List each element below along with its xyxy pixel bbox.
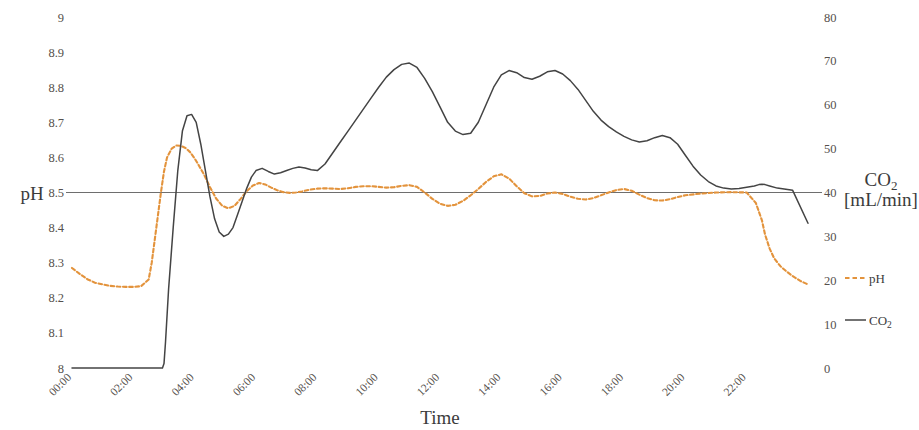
x-axis-tick-label: 00:00: [46, 371, 73, 398]
right-axis-title-line2: [mL/min]: [844, 189, 918, 210]
x-axis-ticks: 00:0002:0004:0006:0008:0010:0012:0014:00…: [46, 371, 748, 398]
right-axis-ticks: 01020304050607080: [824, 11, 837, 376]
x-axis-tick-label: 04:00: [169, 371, 196, 398]
legend-label-ph: pH: [869, 271, 885, 286]
x-axis-tick-label: 10:00: [353, 371, 380, 398]
series-lines: [72, 63, 808, 368]
x-axis-tick-label: 22:00: [721, 371, 748, 398]
chart-container: 88.18.28.38.48.58.68.78.88.99 0102030405…: [0, 0, 919, 430]
left-axis-ticks: 88.18.28.38.48.58.68.78.88.99: [48, 11, 64, 376]
series-line-ph: [72, 145, 808, 286]
x-axis-tick-label: 16:00: [537, 371, 564, 398]
right-axis-tick-label: 80: [824, 11, 837, 25]
left-axis-tick-label: 8.1: [48, 326, 64, 340]
series-line-co2: [72, 63, 808, 368]
left-axis-tick-label: 8.6: [48, 151, 64, 165]
left-axis-title: pH: [20, 183, 44, 204]
right-axis-tick-label: 30: [824, 230, 837, 244]
x-axis-tick-label: 06:00: [230, 371, 257, 398]
legend-label-co2: CO2: [869, 313, 892, 330]
chart-legend: pHCO2: [845, 271, 892, 330]
right-axis-tick-label: 70: [824, 54, 837, 68]
left-axis-tick-label: 8.9: [48, 46, 64, 60]
x-axis-tick-label: 08:00: [292, 371, 319, 398]
right-axis-tick-label: 60: [824, 98, 837, 112]
right-axis-tick-label: 20: [824, 274, 837, 288]
x-axis-tick-label: 12:00: [414, 371, 441, 398]
left-axis-tick-label: 8.5: [48, 186, 64, 200]
left-axis-tick-label: 8.3: [48, 256, 64, 270]
left-axis-tick-label: 9: [58, 11, 64, 25]
x-axis-tick-label: 14:00: [476, 371, 503, 398]
x-axis-title: Time: [420, 407, 459, 428]
left-axis-tick-label: 8.8: [48, 81, 64, 95]
right-axis-tick-label: 0: [824, 362, 830, 376]
right-axis-tick-label: 10: [824, 318, 837, 332]
left-axis-tick-label: 8.7: [48, 116, 64, 130]
x-axis-tick-label: 18:00: [598, 371, 625, 398]
axis-titles: pHTimeCO2[mL/min]: [20, 169, 918, 428]
x-axis-tick-label: 02:00: [108, 371, 135, 398]
right-axis-tick-label: 40: [824, 186, 837, 200]
right-axis-tick-label: 50: [824, 142, 837, 156]
ph-co2-time-series-chart: 88.18.28.38.48.58.68.78.88.99 0102030405…: [0, 0, 919, 430]
left-axis-tick-label: 8.4: [48, 221, 64, 235]
left-axis-tick-label: 8.2: [48, 291, 64, 305]
x-axis-tick-label: 20:00: [660, 371, 687, 398]
